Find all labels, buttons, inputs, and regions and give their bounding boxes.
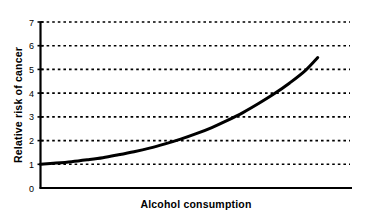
y-tick-label-3: 3 (29, 112, 34, 122)
grid-lines (41, 22, 350, 164)
chart-plot-area: 7 6 5 4 3 2 1 0 (0, 0, 365, 218)
risk-curve-line (41, 58, 318, 165)
y-tick-label-4: 4 (29, 89, 34, 99)
y-tick-label-6: 6 (29, 41, 34, 51)
y-tick-label-1: 1 (29, 160, 34, 170)
y-tick-label-7: 7 (29, 18, 34, 28)
y-axis-tick-labels: 7 6 5 4 3 2 1 0 (29, 18, 34, 194)
x-axis-title: Alcohol consumption (40, 198, 352, 210)
y-tick-label-2: 2 (29, 136, 34, 146)
y-tick-label-0: 0 (29, 184, 34, 194)
chart-container: Relative risk of cancer 7 (0, 0, 365, 218)
y-tick-label-5: 5 (29, 65, 34, 75)
